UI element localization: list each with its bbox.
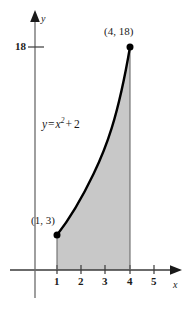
shaded-region (57, 47, 130, 270)
y-axis-arrowhead (30, 10, 40, 22)
equation-constant: 2 (73, 118, 81, 130)
equation-equals: = (47, 118, 56, 130)
x-tick-label-5: 5 (151, 276, 157, 287)
x-tick-label-1: 1 (54, 276, 60, 287)
equation-plus: + (64, 118, 73, 130)
y-axis-label: y (41, 14, 45, 24)
plot-canvas (0, 0, 194, 310)
point-label-4-18: (4, 18) (104, 26, 133, 37)
x-tick-label-2: 2 (78, 276, 84, 287)
point-marker-1-3 (54, 232, 61, 239)
x-axis-label: x (173, 280, 177, 290)
point-label-1-3: (1, 3) (31, 215, 55, 226)
y-tick-label-18: 18 (15, 41, 26, 52)
x-tick-label-3: 3 (102, 276, 108, 287)
x-axis-arrowhead (170, 265, 182, 275)
graph-figure: 1 2 3 4 5 18 x y (4, 18) (1, 3) y=x2+2 (0, 0, 194, 310)
equation-label: y=x2+2 (42, 119, 81, 131)
x-tick-label-4: 4 (127, 276, 133, 287)
point-marker-4-18 (127, 44, 134, 51)
